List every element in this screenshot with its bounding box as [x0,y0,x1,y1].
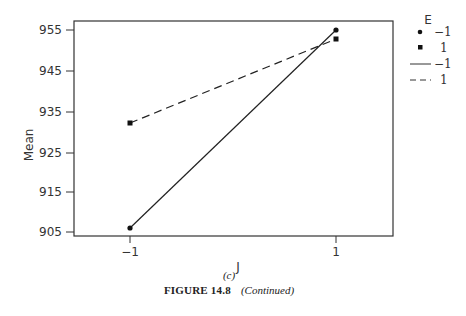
x-tick-label: 1 [332,245,340,259]
subfigure-label: (c) [0,269,462,281]
legend: E −1 1 −1 1 [410,13,452,87]
x-axis: −1 1 [121,236,340,259]
legend-title: E [424,13,432,27]
figure-caption: FIGURE 14.8(Continued) [0,284,462,296]
y-tick-label: 915 [39,185,62,199]
y-tick-label: 925 [39,146,62,160]
y-tick-label: 935 [39,105,62,119]
series-e-minus-1 [127,27,338,230]
square-marker [334,37,339,42]
diamond-marker-legend-icon [418,30,423,35]
series-e-1 [128,37,339,126]
figure-note: (Continued) [241,284,294,296]
legend-label: −1 [434,25,452,39]
diamond-marker [333,27,338,32]
square-marker [128,121,133,126]
legend-label: 1 [440,73,448,87]
y-axis-title: Mean [22,129,36,162]
y-tick-label: 905 [39,225,62,239]
figure-number: FIGURE 14.8 [164,284,231,296]
square-marker-legend-icon [418,45,423,50]
y-tick-label: 955 [39,23,62,37]
legend-label: −1 [434,57,452,71]
y-axis: 955 945 935 925 915 905 [39,23,74,239]
legend-label: 1 [440,41,448,55]
x-tick-label: −1 [121,245,139,259]
y-tick-label: 945 [39,64,62,78]
diamond-marker [127,225,132,230]
